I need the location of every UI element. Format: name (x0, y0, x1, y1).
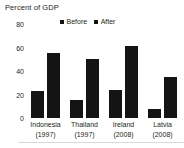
bar-group-thailand (65, 24, 104, 118)
bar-thailand-after (86, 59, 99, 118)
bar-indonesia-after (47, 53, 60, 118)
x-label-ireland: Ireland(2008) (104, 120, 143, 139)
bar-group-latvia (143, 24, 182, 118)
bar-latvia-before (148, 109, 161, 118)
y-tick-0: 0 (2, 115, 24, 122)
x-label-latvia: Latvia(2008) (143, 120, 182, 139)
bar-thailand-before (70, 100, 83, 118)
bar-ireland-before (109, 90, 122, 118)
y-axis: 80 60 40 20 0 (0, 0, 24, 148)
legend-swatch-before (60, 20, 64, 24)
plot-area (26, 24, 182, 118)
y-tick-60: 60 (2, 44, 24, 51)
bar-ireland-after (125, 46, 138, 118)
x-axis-labels: Indonesia(1997)Thailand(1997)Ireland(200… (26, 120, 182, 148)
bar-chart: Percent of GDP Before After 80 60 40 20 … (0, 0, 184, 148)
bar-latvia-after (164, 77, 177, 118)
legend-swatch-after (94, 20, 98, 24)
bar-indonesia-before (31, 91, 44, 118)
y-tick-20: 20 (2, 91, 24, 98)
x-label-indonesia: Indonesia(1997) (26, 120, 65, 139)
y-tick-80: 80 (2, 21, 24, 28)
bar-group-ireland (104, 24, 143, 118)
bar-group-indonesia (26, 24, 65, 118)
x-label-thailand: Thailand(1997) (65, 120, 104, 139)
y-tick-40: 40 (2, 68, 24, 75)
